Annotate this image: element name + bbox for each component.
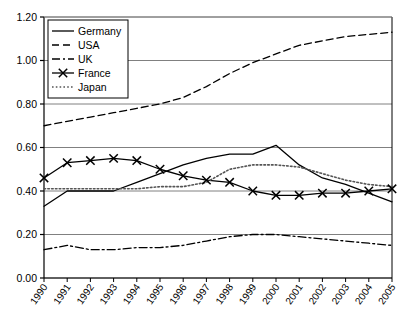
line-chart: 0.000.200.400.600.801.001.20 19901991199… — [0, 0, 403, 327]
y-axis-tick-label: 0.20 — [17, 228, 38, 240]
y-axis-tick-label: 1.20 — [17, 11, 38, 23]
x-axis-tick-label: 1994 — [121, 281, 143, 306]
x-axis-tick-label: 2002 — [306, 281, 328, 306]
chart-container: 0.000.200.400.600.801.001.20 19901991199… — [0, 0, 403, 327]
y-axis-tick-label: 0.80 — [17, 98, 38, 110]
x-axis-tick-label: 1990 — [28, 281, 50, 306]
legend-label-germany: Germany — [78, 25, 122, 37]
x-axis-tick-label: 1992 — [74, 281, 96, 306]
x-axis-tick-label: 2005 — [376, 281, 398, 306]
legend: GermanyUSAUKFranceJapan — [48, 20, 128, 98]
x-axis-labels: 1990199119921993199419951996199719981999… — [28, 281, 398, 306]
x-axis-tick-label: 2003 — [329, 281, 351, 306]
y-axis-labels: 0.000.200.400.600.801.001.20 — [17, 11, 38, 284]
x-axis-tick-label: 2000 — [260, 281, 282, 306]
legend-label-france: France — [78, 67, 111, 79]
x-axis-tick-label: 1998 — [213, 281, 235, 306]
x-axis-tick-label: 1993 — [97, 281, 119, 306]
series-line-japan — [44, 165, 392, 189]
legend-label-uk: UK — [78, 53, 93, 65]
series-line-uk — [44, 235, 392, 250]
x-axis-tick-label: 1996 — [167, 281, 189, 306]
y-axis-tick-label: 0.00 — [17, 272, 38, 284]
x-axis-tick-label: 2001 — [283, 281, 305, 306]
series-line-france — [44, 158, 392, 195]
legend-label-usa: USA — [78, 39, 100, 51]
x-axis-tick-label: 1999 — [237, 281, 259, 306]
x-axis-tick-label: 1997 — [190, 281, 212, 306]
x-axis-tick-label: 2004 — [353, 281, 375, 306]
x-axis-tick-label: 1995 — [144, 281, 166, 306]
legend-label-japan: Japan — [78, 81, 107, 93]
y-axis-tick-label: 0.60 — [17, 141, 38, 153]
series-marker-france — [156, 165, 164, 173]
y-axis-tick-label: 0.40 — [17, 185, 38, 197]
x-axis-tick-label: 1991 — [51, 281, 73, 306]
y-axis-tick-label: 1.00 — [17, 54, 38, 66]
